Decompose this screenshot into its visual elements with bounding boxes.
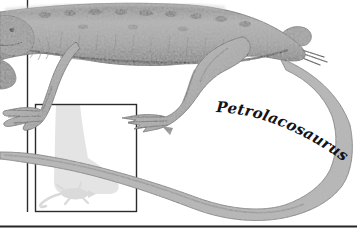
eye — [10, 28, 15, 32]
petrolacosaurus-figure: Petrolacosaurus — [0, 0, 359, 233]
illustration-canvas: Petrolacosaurus — [0, 0, 359, 233]
